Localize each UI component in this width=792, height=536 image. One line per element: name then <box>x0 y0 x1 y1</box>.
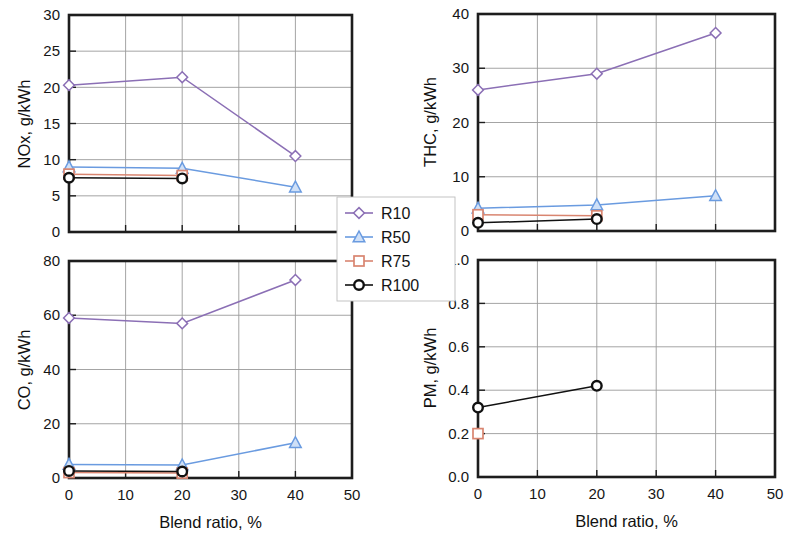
y-tick-label: 20 <box>43 79 60 96</box>
series-line-r75 <box>69 473 182 474</box>
data-point-marker-diamond <box>710 28 721 39</box>
data-point-marker-circle <box>177 174 187 184</box>
y-tick-label: 0 <box>461 222 469 239</box>
x-tick-label: 50 <box>344 486 361 503</box>
series-line-r100 <box>69 178 182 179</box>
panel-thc: 010203040THC, g/kWh <box>421 5 775 239</box>
y-tick-label: 0.6 <box>448 338 469 355</box>
x-tick-label: 20 <box>174 486 191 503</box>
legend-label-r75: R75 <box>381 253 410 270</box>
legend-label-r10: R10 <box>381 205 410 222</box>
y-tick-label: 0.4 <box>448 381 469 398</box>
chart-figure: 051015202530NOx, g/kWh010203040THC, g/kW… <box>0 0 792 536</box>
y-axis-title-thc: THC, g/kWh <box>421 77 439 167</box>
plot-frame-pm <box>478 260 775 477</box>
x-tick-label: 30 <box>230 486 247 503</box>
series-line-r100 <box>69 471 182 472</box>
y-axis-title-nox: NOx, g/kWh <box>15 80 33 169</box>
x-tick-label: 30 <box>648 485 665 502</box>
x-tick-label: 0 <box>474 485 482 502</box>
data-point-marker-square <box>473 429 483 439</box>
panel-nox: 051015202530NOx, g/kWh <box>15 6 352 240</box>
legend-label-r50: R50 <box>381 229 410 246</box>
data-point-marker-diamond <box>177 318 188 329</box>
y-axis-title-pm: PM, g/kWh <box>421 328 439 409</box>
data-point-marker-circle <box>177 467 187 477</box>
series-line-r75 <box>69 174 182 175</box>
y-tick-label: 40 <box>452 5 469 22</box>
figure-panel-grid: 051015202530NOx, g/kWh010203040THC, g/kW… <box>0 0 792 536</box>
data-point-marker-diamond <box>64 80 75 91</box>
y-tick-label: 20 <box>43 415 60 432</box>
series-r75-pm <box>473 429 483 439</box>
y-tick-label: 15 <box>43 115 60 132</box>
y-tick-label: 30 <box>43 6 60 23</box>
data-point-marker-circle <box>354 280 364 290</box>
x-axis-title-pm: Blend ratio, % <box>575 512 678 530</box>
y-tick-label: 80 <box>43 252 60 269</box>
y-tick-label: 10 <box>43 151 60 168</box>
data-point-marker-diamond <box>473 85 484 96</box>
legend-label-r100: R100 <box>381 277 419 294</box>
x-tick-label: 40 <box>287 486 304 503</box>
x-tick-label: 20 <box>588 485 605 502</box>
data-point-marker-circle <box>592 214 602 224</box>
data-point-marker-diamond <box>290 275 301 286</box>
y-tick-label: 20 <box>452 114 469 131</box>
series-line-r75 <box>478 215 597 216</box>
y-tick-label: 60 <box>43 306 60 323</box>
y-tick-label: 30 <box>452 59 469 76</box>
x-tick-label: 10 <box>117 486 134 503</box>
data-point-marker-circle <box>473 403 483 413</box>
y-tick-label: 0.2 <box>448 425 469 442</box>
chart-legend: R10R50R75R100 <box>337 197 455 301</box>
y-tick-label: 0 <box>52 469 60 486</box>
data-point-marker-circle <box>473 218 483 228</box>
y-tick-label: 25 <box>43 42 60 59</box>
x-tick-label: 50 <box>767 485 784 502</box>
data-point-marker-diamond <box>591 68 602 79</box>
x-axis-title-co: Blend ratio, % <box>159 513 262 531</box>
data-point-marker-square <box>354 256 364 266</box>
data-point-marker-circle <box>64 173 74 183</box>
y-tick-label: 0 <box>52 223 60 240</box>
y-tick-label: 5 <box>52 187 60 204</box>
data-point-marker-circle <box>592 381 602 391</box>
y-tick-label: 10 <box>452 168 469 185</box>
x-tick-label: 40 <box>707 485 724 502</box>
data-point-marker-diamond <box>177 72 188 83</box>
y-axis-title-co: CO, g/kWh <box>15 330 33 411</box>
panel-co: 02040608001020304050Blend ratio, %CO, g/… <box>15 252 360 531</box>
data-point-marker-diamond <box>64 313 75 324</box>
data-point-marker-circle <box>64 466 74 476</box>
x-tick-label: 10 <box>529 485 546 502</box>
data-point-marker-triangle <box>290 437 302 448</box>
y-tick-label: 0.0 <box>448 468 469 485</box>
y-tick-label: 40 <box>43 361 60 378</box>
x-tick-label: 0 <box>65 486 73 503</box>
data-point-marker-triangle <box>710 190 722 201</box>
panel-pm: 0.00.20.40.60.81.001020304050Blend ratio… <box>421 251 783 530</box>
